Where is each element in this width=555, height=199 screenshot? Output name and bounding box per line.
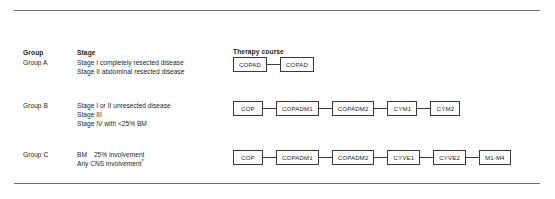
therapy-chain: COP COPADM1 COPADM2 CYM1 CYM2 <box>233 100 548 117</box>
chain-connector <box>319 108 332 109</box>
therapy-protocol-figure: Group Stage Therapy course Group A Stage… <box>0 0 555 199</box>
stage-description-c: BM25% involvement Any CNS involvement* <box>77 150 227 168</box>
chain-connector <box>420 157 433 158</box>
footnote-marker: * <box>142 158 144 164</box>
chain-connector <box>466 157 479 158</box>
therapy-course-c: COP COPADM1 COPADM2 CYVE1 CYVE2 M1-M4 <box>233 149 548 166</box>
therapy-course-b: COP COPADM1 COPADM2 CYM1 CYM2 <box>233 100 548 117</box>
chain-connector <box>267 64 280 65</box>
group-label-a: Group A <box>23 58 77 67</box>
therapy-node[interactable]: COPADM1 <box>276 150 319 165</box>
therapy-node[interactable]: CYVE1 <box>387 150 420 165</box>
therapy-node[interactable]: COPADM1 <box>276 101 319 116</box>
group-label-c: Group C <box>23 150 77 159</box>
stage-line: Stage I completely resected disease <box>77 58 227 67</box>
therapy-node[interactable]: COPAD <box>233 57 267 72</box>
therapy-node[interactable]: CYM2 <box>430 101 460 116</box>
chain-connector <box>263 157 276 158</box>
therapy-node[interactable]: CYVE2 <box>433 150 466 165</box>
top-horizontal-rule <box>14 10 540 11</box>
chain-connector <box>374 108 387 109</box>
column-header-stage: Stage <box>77 48 227 57</box>
therapy-node[interactable]: COP <box>233 101 263 116</box>
stage-line: Stage III <box>77 110 227 119</box>
chain-connector <box>374 157 387 158</box>
bottom-horizontal-rule <box>14 183 540 184</box>
stage-line: Stage IV with <25% BM <box>77 119 227 128</box>
therapy-node[interactable]: COP <box>233 150 263 165</box>
therapy-node[interactable]: COPAD <box>280 57 314 72</box>
stage-description-a: Stage I completely resected disease Stag… <box>77 58 227 76</box>
chain-connector <box>263 108 276 109</box>
therapy-chain: COPAD COPAD <box>233 56 548 73</box>
therapy-course-a: COPAD COPAD <box>233 56 548 73</box>
chain-connector <box>417 108 430 109</box>
stage-description-b: Stage I or II unresected disease Stage I… <box>77 101 227 129</box>
stage-line: Any CNS involvement* <box>77 159 227 168</box>
stage-line: Stage I or II unresected disease <box>77 101 227 110</box>
therapy-node[interactable]: COPADM2 <box>332 150 375 165</box>
column-header-group: Group <box>23 48 77 57</box>
therapy-chain: COP COPADM1 COPADM2 CYVE1 CYVE2 M1-M4 <box>233 149 548 166</box>
therapy-node[interactable]: CYM1 <box>387 101 417 116</box>
chain-connector <box>319 157 332 158</box>
group-label-b: Group B <box>23 101 77 110</box>
stage-line: Stage II abdominal resected disease <box>77 67 227 76</box>
column-header-therapy-course: Therapy course <box>233 48 284 55</box>
stage-line: BM25% involvement <box>77 150 227 159</box>
therapy-node[interactable]: COPADM2 <box>332 101 375 116</box>
therapy-node[interactable]: M1-M4 <box>479 150 511 165</box>
